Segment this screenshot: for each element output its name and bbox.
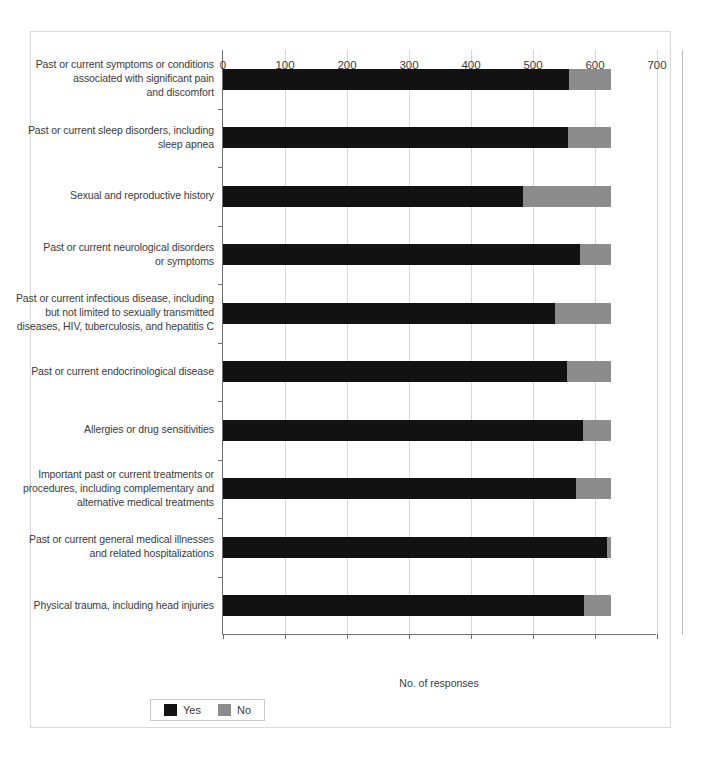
stacked-bar bbox=[223, 361, 657, 382]
x-tick bbox=[595, 634, 596, 639]
bar-segment-no bbox=[523, 186, 611, 207]
plot-area: 0100200300400500600700Past or current sy… bbox=[222, 50, 656, 635]
category-label-line: procedures, including complementary and bbox=[14, 481, 214, 495]
legend-swatch-yes bbox=[164, 704, 177, 716]
category-label-line: Past or current symptoms or conditions bbox=[14, 57, 214, 71]
category-label: Past or current symptoms or conditionsas… bbox=[14, 57, 214, 99]
y-tick bbox=[218, 226, 223, 227]
category-label: Allergies or drug sensitivities bbox=[14, 422, 214, 436]
bar-segment-yes bbox=[223, 595, 584, 616]
category-label-line: sleep apnea bbox=[14, 137, 214, 151]
x-tick bbox=[409, 634, 410, 639]
category-label: Past or current neurological disordersor… bbox=[14, 240, 214, 268]
category-label-line: but not limited to sexually transmitted bbox=[14, 305, 214, 319]
y-tick bbox=[218, 460, 223, 461]
bar-segment-yes bbox=[223, 537, 607, 558]
bar-segment-no bbox=[555, 303, 611, 324]
x-tick bbox=[285, 634, 286, 639]
legend-label-no: No bbox=[237, 704, 251, 716]
bar-segment-yes bbox=[223, 303, 555, 324]
x-tick bbox=[657, 634, 658, 639]
category-label-line: and related hospitalizations bbox=[14, 546, 214, 560]
category-label-line: Past or current sleep disorders, includi… bbox=[14, 123, 214, 137]
category-label-line: and discomfort bbox=[14, 85, 214, 99]
stacked-bar bbox=[223, 186, 657, 207]
stacked-bar bbox=[223, 537, 657, 558]
bar-segment-yes bbox=[223, 186, 523, 207]
bar-segment-yes bbox=[223, 244, 580, 265]
bar-segment-yes bbox=[223, 420, 583, 441]
category-label-line: associated with significant pain bbox=[14, 71, 214, 85]
y-tick bbox=[218, 109, 223, 110]
y-tick bbox=[218, 343, 223, 344]
y-tick bbox=[218, 577, 223, 578]
bar-segment-no bbox=[583, 420, 612, 441]
legend-swatch-no bbox=[218, 704, 231, 716]
y-tick bbox=[218, 401, 223, 402]
category-label: Important past or current treatments orp… bbox=[14, 467, 214, 509]
category-label: Past or current general medical illnesse… bbox=[14, 532, 214, 560]
bar-segment-yes bbox=[223, 361, 567, 382]
category-label-line: or symptoms bbox=[14, 254, 214, 268]
category-label-line: diseases, HIV, tuberculosis, and hepatit… bbox=[14, 319, 214, 333]
x-axis-title: No. of responses bbox=[222, 677, 656, 689]
bar-segment-no bbox=[568, 127, 611, 148]
stacked-bar bbox=[223, 127, 657, 148]
x-tick bbox=[533, 634, 534, 639]
bar-segment-no bbox=[607, 537, 611, 558]
bar-segment-no bbox=[569, 69, 611, 90]
stacked-bar bbox=[223, 420, 657, 441]
stacked-bar bbox=[223, 69, 657, 90]
category-label: Past or current sleep disorders, includi… bbox=[14, 123, 214, 151]
x-tick bbox=[347, 634, 348, 639]
x-tick bbox=[223, 634, 224, 639]
bar-segment-yes bbox=[223, 478, 576, 499]
bar-segment-no bbox=[584, 595, 611, 616]
bar-segment-yes bbox=[223, 69, 569, 90]
category-label-line: Allergies or drug sensitivities bbox=[14, 422, 214, 436]
stacked-bar bbox=[223, 595, 657, 616]
x-tick bbox=[471, 634, 472, 639]
category-label-line: Past or current general medical illnesse… bbox=[14, 532, 214, 546]
category-label-line: Important past or current treatments or bbox=[14, 467, 214, 481]
category-label: Sexual and reproductive history bbox=[14, 188, 214, 202]
category-label-line: Physical trauma, including head injuries bbox=[14, 598, 214, 612]
category-label-line: alternative medical treatments bbox=[14, 495, 214, 509]
category-label-line: Past or current endocrinological disease bbox=[14, 364, 214, 378]
category-label: Past or current endocrinological disease bbox=[14, 364, 214, 378]
stacked-bar bbox=[223, 244, 657, 265]
category-label-line: Past or current infectious disease, incl… bbox=[14, 291, 214, 305]
legend-item-yes: Yes bbox=[164, 704, 201, 716]
chart-legend: Yes No bbox=[150, 699, 265, 721]
y-tick bbox=[218, 518, 223, 519]
bar-segment-no bbox=[576, 478, 611, 499]
legend-label-yes: Yes bbox=[183, 704, 201, 716]
category-label: Past or current infectious disease, incl… bbox=[14, 291, 214, 333]
category-label-line: Past or current neurological disorders bbox=[14, 240, 214, 254]
bar-segment-yes bbox=[223, 127, 568, 148]
x-gridline bbox=[657, 50, 658, 634]
figure-panel: 0100200300400500600700Past or current sy… bbox=[30, 31, 671, 728]
legend-item-no: No bbox=[218, 704, 251, 716]
bar-segment-no bbox=[580, 244, 611, 265]
category-label-line: Sexual and reproductive history bbox=[14, 188, 214, 202]
y-tick bbox=[218, 284, 223, 285]
y-tick bbox=[218, 167, 223, 168]
category-label: Physical trauma, including head injuries bbox=[14, 598, 214, 612]
plot-right-rule bbox=[682, 50, 683, 635]
bar-segment-no bbox=[567, 361, 611, 382]
stacked-bar bbox=[223, 478, 657, 499]
stacked-bar bbox=[223, 303, 657, 324]
